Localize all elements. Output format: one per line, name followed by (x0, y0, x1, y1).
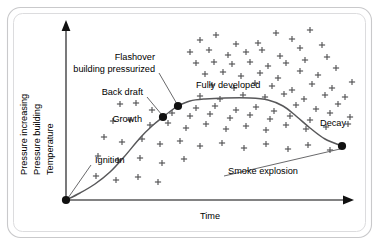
plus-marker (319, 42, 325, 48)
fire-growth-curve (66, 98, 342, 200)
plus-marker (243, 49, 249, 55)
plus-marker (305, 142, 311, 148)
plus-marker (212, 103, 218, 109)
plus-marker (187, 113, 193, 119)
y-axis-label-pressure-increasing: Pressure increasing (19, 94, 29, 175)
y-axis-labels: Pressure increasing Pressure building Te… (19, 94, 55, 175)
plus-marker (289, 87, 295, 93)
plus-marker (255, 40, 261, 46)
plus-marker (101, 134, 107, 140)
plus-marker (137, 155, 143, 161)
annotation-fully-developed: Fully developed (196, 80, 260, 90)
plus-marker (227, 115, 233, 121)
plus-marker (217, 96, 223, 102)
plus-marker (220, 69, 226, 75)
plus-marker (193, 60, 199, 66)
annotation-ignition: Ignition (95, 155, 125, 165)
plus-marker (213, 32, 219, 38)
plus-marker (197, 37, 203, 43)
plus-marker (257, 70, 263, 76)
plus-marker (297, 45, 303, 51)
plus-marker (229, 61, 235, 67)
figure-frame-outer (8, 8, 372, 238)
plus-marker (197, 143, 203, 149)
plus-marker (177, 138, 183, 144)
plus-marker (329, 85, 335, 91)
y-axis-label-temperature: Temperature (45, 123, 55, 175)
plus-marker (93, 173, 99, 179)
plus-marker (253, 104, 259, 110)
curve-node-ignition (62, 196, 70, 204)
plus-marker (307, 27, 313, 33)
plus-marker (283, 122, 289, 128)
curve-node-dots (62, 102, 346, 204)
plus-marker (287, 113, 293, 119)
plus-marker (157, 141, 163, 147)
plus-marker (293, 102, 299, 108)
plus-marker (135, 174, 141, 180)
plus-marker (225, 52, 231, 58)
figure-root: Pressure increasing Pressure building Te… (0, 0, 379, 245)
curve-node-smoke-explosion (338, 142, 346, 150)
plus-marker (263, 141, 269, 147)
leader-line-building-pressurized (159, 73, 177, 104)
x-axis-label-time: Time (200, 211, 220, 221)
annotation-smoke-explosion: Smoke explosion (228, 166, 298, 176)
plus-marker (269, 83, 275, 89)
curve-node-flashover (174, 102, 182, 110)
plus-marker (342, 94, 348, 100)
plus-marker (155, 179, 161, 185)
plus-marker (202, 71, 208, 77)
plus-marker (159, 160, 165, 166)
y-axis-arrow-icon (62, 20, 71, 31)
plus-marker (238, 73, 244, 79)
plus-marker (277, 53, 283, 59)
plus-marker (324, 54, 330, 60)
plus-marker (333, 65, 339, 71)
plus-marker (233, 107, 239, 113)
plus-marker (285, 146, 291, 152)
plus-marker (113, 177, 119, 183)
plus-marker (313, 106, 319, 112)
plus-marker (233, 41, 239, 47)
plus-marker (183, 125, 189, 131)
plus-marker (315, 72, 321, 78)
x-axis-arrow-icon (343, 196, 354, 205)
plus-marker (203, 121, 209, 127)
plus-marker (259, 47, 265, 53)
plus-marker (275, 75, 281, 81)
plus-marker (263, 127, 269, 133)
plus-marker (297, 68, 303, 74)
plus-marker (243, 123, 249, 129)
plus-marker (149, 107, 155, 113)
annotation-decay: Decay (320, 118, 346, 128)
plus-marker (193, 105, 199, 111)
scatter-plus-layer (93, 27, 355, 185)
plus-marker (265, 63, 271, 69)
plus-marker (302, 57, 308, 63)
curve-node-back-draft (159, 113, 167, 121)
plus-marker (349, 79, 355, 85)
annotation-flashover: Flashover (115, 52, 155, 62)
plus-marker (289, 36, 295, 42)
plus-marker (119, 139, 125, 145)
plus-marker (267, 116, 273, 122)
plus-marker (211, 59, 217, 65)
plus-marker (327, 110, 333, 116)
plus-marker (271, 108, 277, 114)
plus-marker (301, 96, 307, 102)
annotation-back-draft: Back draft (102, 87, 144, 97)
plus-marker (281, 91, 287, 97)
plus-marker (219, 140, 225, 146)
annotation-growth: Growth (112, 114, 142, 124)
y-axis-label-pressure-building: Pressure building (32, 104, 42, 175)
plus-marker (117, 101, 123, 107)
annotation-building-pressurized: building pressurized (73, 64, 155, 74)
plus-marker (206, 47, 212, 53)
plus-marker (273, 30, 279, 36)
plus-marker (283, 60, 289, 66)
plus-marker (223, 126, 229, 132)
fire-development-chart: Pressure increasing Pressure building Te… (0, 0, 379, 245)
plus-marker (165, 120, 171, 126)
plus-marker (307, 117, 313, 123)
